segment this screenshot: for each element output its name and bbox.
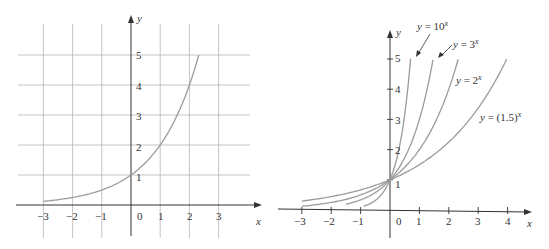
leader-10x-arrow-icon xyxy=(416,50,421,57)
right-ytick: 1 xyxy=(395,178,401,190)
label-10x: y = 10x xyxy=(416,19,449,32)
label-2x: y = 2x xyxy=(455,73,482,86)
right-xtick: −2 xyxy=(323,215,335,227)
left-ytick: 4 xyxy=(136,80,142,92)
right-x-axis xyxy=(278,209,528,212)
left-y-tick-labels: 1 2 3 4 5 xyxy=(136,49,142,183)
left-xtick: 3 xyxy=(216,210,222,222)
label-1_5x: y = (1.5)x xyxy=(479,110,522,124)
left-xtick: −2 xyxy=(66,210,78,222)
right-y-label: y xyxy=(395,26,401,38)
left-xtick: −3 xyxy=(37,210,49,222)
figure: x y 0 −3 −2 −1 1 2 3 1 2 3 4 5 xyxy=(0,0,549,249)
leader-3x-arrow-icon xyxy=(438,52,444,58)
right-x-label: x xyxy=(526,217,532,229)
left-y-arrow-icon xyxy=(128,15,134,23)
left-curve-2x xyxy=(43,55,198,201)
right-x-arrow-icon xyxy=(524,209,532,215)
left-ytick: 3 xyxy=(136,110,142,122)
right-xtick: 2 xyxy=(446,215,452,227)
left-y-label: y xyxy=(136,12,142,24)
left-zero-label: 0 xyxy=(137,210,143,222)
right-xtick: 1 xyxy=(416,215,422,227)
right-xtick: −3 xyxy=(294,215,306,227)
left-xtick: −1 xyxy=(95,210,107,222)
right-xtick: 3 xyxy=(475,215,481,227)
label-3x: y = 3x xyxy=(452,37,479,50)
right-xtick: 4 xyxy=(505,215,511,227)
right-y-arrow-icon xyxy=(387,30,393,38)
leader-10x xyxy=(418,34,430,54)
left-ytick: 5 xyxy=(136,49,142,61)
right-ytick: 5 xyxy=(395,52,401,64)
left-ytick: 2 xyxy=(136,141,142,153)
left-x-arrow-icon xyxy=(254,202,262,208)
right-x-tick-labels: −3 −2 −1 1 2 3 4 xyxy=(294,215,511,227)
right-chart: y = 10x y = 3x y = 2x y = (1.5)x x y 0 −… xyxy=(278,19,532,238)
left-xtick: 2 xyxy=(187,210,193,222)
left-chart: x y 0 −3 −2 −1 1 2 3 1 2 3 4 5 xyxy=(16,12,262,238)
right-xtick: −1 xyxy=(352,215,364,227)
right-zero-label: 0 xyxy=(396,215,402,227)
left-x-tick-labels: −3 −2 −1 1 2 3 xyxy=(37,210,222,222)
left-grid xyxy=(18,24,250,238)
left-ytick: 1 xyxy=(136,171,142,183)
right-ytick: 3 xyxy=(395,114,401,126)
left-x-label: x xyxy=(255,215,261,227)
curve-10x xyxy=(364,59,411,207)
right-ytick: 4 xyxy=(395,83,401,95)
right-ytick: 2 xyxy=(395,144,401,156)
left-xtick: 1 xyxy=(158,210,164,222)
